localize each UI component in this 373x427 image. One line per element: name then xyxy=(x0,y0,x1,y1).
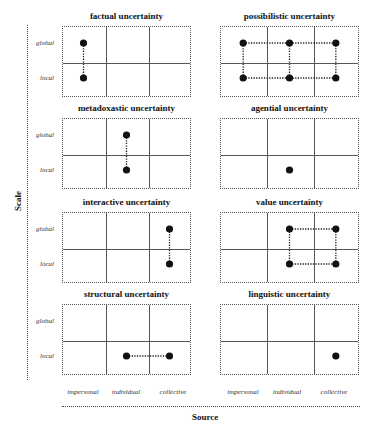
data-point xyxy=(123,131,130,138)
data-point xyxy=(166,225,173,232)
data-point xyxy=(240,39,247,46)
data-point xyxy=(286,260,293,267)
data-point xyxy=(80,74,87,81)
data-point xyxy=(240,74,247,81)
data-point xyxy=(286,166,293,173)
data-point xyxy=(286,39,293,46)
data-point xyxy=(286,225,293,232)
data-point xyxy=(123,166,130,173)
data-point xyxy=(332,352,339,359)
points-overlay xyxy=(0,0,373,427)
data-point xyxy=(123,352,130,359)
data-point xyxy=(286,74,293,81)
data-point xyxy=(166,352,173,359)
data-point xyxy=(332,74,339,81)
data-point xyxy=(332,260,339,267)
data-point xyxy=(80,39,87,46)
data-point xyxy=(332,225,339,232)
data-point xyxy=(166,260,173,267)
data-point xyxy=(332,39,339,46)
